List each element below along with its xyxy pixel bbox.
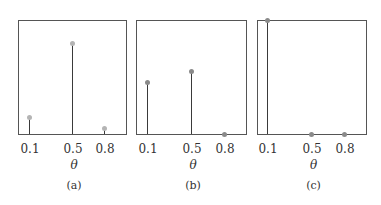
stem-marker — [342, 132, 347, 137]
stem-line — [147, 82, 148, 134]
subfigure-caption: (b) — [185, 180, 201, 191]
x-tick-label: 0.8 — [215, 143, 234, 155]
stem-line — [267, 20, 268, 134]
plot-frame — [257, 20, 367, 135]
x-tick-label: 0.5 — [182, 143, 201, 155]
x-tick-label: 0.5 — [302, 143, 321, 155]
x-tick-label: 0.1 — [20, 143, 39, 155]
stem-marker — [265, 18, 270, 23]
stem-marker — [309, 132, 314, 137]
x-axis-label: θ — [310, 159, 317, 171]
stem-marker — [27, 115, 32, 120]
subfigure-caption: (a) — [66, 180, 81, 191]
x-tick-label: 0.8 — [335, 143, 354, 155]
x-axis-label: θ — [70, 159, 77, 171]
x-axis-label: θ — [189, 159, 196, 171]
x-tick-label: 0.8 — [95, 143, 114, 155]
x-tick-label: 0.1 — [138, 143, 157, 155]
stem-marker — [145, 80, 150, 85]
stem-marker — [222, 132, 227, 137]
subfigure-caption: (c) — [306, 180, 321, 191]
x-tick-label: 0.5 — [63, 143, 82, 155]
x-tick-label: 0.1 — [258, 143, 277, 155]
stem-marker — [70, 41, 75, 46]
stem-line — [72, 43, 73, 134]
stem-line — [191, 71, 192, 134]
